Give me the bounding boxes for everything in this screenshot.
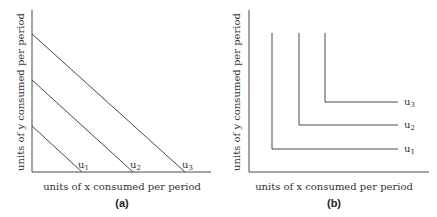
x-axis-label: units of x consumed per period <box>43 181 201 192</box>
indifference-curves-figure: u1 u2 u3 units of x consumed per period … <box>0 0 437 217</box>
y-axis-label: units of y consumed per period <box>15 13 26 171</box>
panel-a: u1 u2 u3 units of x consumed per period … <box>15 10 211 209</box>
panel-b: u1 u2 u3 units of x consumed per period … <box>231 10 429 209</box>
curve-u2 <box>299 33 398 125</box>
label-u1: u1 <box>404 143 415 156</box>
y-axis-label: units of y consumed per period <box>231 13 242 171</box>
caption-b: (b) <box>327 197 341 209</box>
label-u3: u3 <box>404 96 415 109</box>
curve-u1 <box>272 33 398 149</box>
curve-u3 <box>32 34 185 172</box>
caption-a: (a) <box>115 197 129 209</box>
label-u3: u3 <box>182 159 193 172</box>
curve-u1 <box>32 126 82 172</box>
label-u2: u2 <box>130 159 141 172</box>
label-u2: u2 <box>404 119 415 132</box>
curve-u3 <box>325 33 398 102</box>
x-axis-label: units of x consumed per period <box>255 181 413 192</box>
